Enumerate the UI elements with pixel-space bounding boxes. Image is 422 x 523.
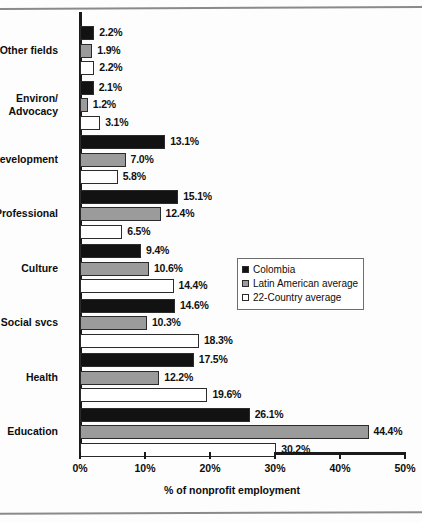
x-tick	[79, 452, 81, 459]
bar[interactable]	[80, 353, 194, 367]
bar[interactable]	[80, 425, 369, 439]
bar[interactable]	[80, 244, 141, 258]
bar-value-label: 1.9%	[97, 43, 120, 58]
bar[interactable]	[80, 225, 122, 239]
x-tick-label: 10%	[134, 462, 155, 474]
bar[interactable]	[80, 81, 94, 95]
x-axis-title: % of nonprofit employment	[0, 484, 422, 496]
x-tick-label: 30%	[264, 462, 285, 474]
bar-value-label: 2.1%	[99, 80, 122, 95]
bar[interactable]	[80, 262, 149, 276]
bar-value-label: 15.1%	[183, 189, 212, 204]
category-label: Environ/ Advocacy	[0, 92, 58, 117]
bar[interactable]	[80, 443, 276, 457]
category-label: Health	[0, 371, 58, 384]
x-tick-label: 40%	[329, 462, 350, 474]
bar-value-label: 30.2%	[281, 442, 310, 457]
page-bottom-rule	[0, 511, 422, 515]
bar-value-label: 44.4%	[374, 424, 403, 439]
x-tick	[339, 452, 341, 459]
bar[interactable]	[80, 279, 174, 293]
bar[interactable]	[80, 135, 165, 149]
x-tick	[404, 452, 406, 459]
category-label: Culture	[0, 262, 58, 275]
page-top-rule	[0, 6, 422, 10]
legend-item-latin-american-average: Latin American average	[242, 277, 358, 290]
bar-value-label: 26.1%	[255, 407, 284, 422]
bar-value-label: 2.2%	[99, 60, 122, 75]
bar[interactable]	[80, 116, 100, 130]
bar-value-label: 10.6%	[154, 261, 183, 276]
legend-swatch-colombia	[242, 266, 249, 273]
bar[interactable]	[80, 316, 147, 330]
bar-value-label: 2.2%	[99, 25, 122, 40]
bar-value-label: 18.3%	[204, 333, 233, 348]
legend-item-22-country-average: 22-Country average	[242, 291, 358, 304]
bar[interactable]	[80, 207, 161, 221]
bar-value-label: 17.5%	[199, 352, 228, 367]
bar[interactable]	[80, 388, 207, 402]
x-tick	[144, 452, 146, 459]
bar-value-label: 9.4%	[146, 243, 169, 258]
category-label: Education	[0, 425, 58, 438]
bar[interactable]	[80, 153, 126, 167]
bar-value-label: 3.1%	[105, 115, 128, 130]
bar-value-label: 6.5%	[127, 224, 150, 239]
bar[interactable]	[80, 61, 94, 75]
bar[interactable]	[80, 408, 250, 422]
x-tick	[209, 452, 211, 459]
bar[interactable]	[80, 190, 178, 204]
x-tick-label: 20%	[199, 462, 220, 474]
legend-label-latin-american-average: Latin American average	[253, 277, 358, 290]
bar[interactable]	[80, 334, 199, 348]
bar[interactable]	[80, 299, 175, 313]
legend-label-22-country-average: 22-Country average	[253, 291, 341, 304]
bar[interactable]	[80, 371, 159, 385]
chart-legend: Colombia Latin American average 22-Count…	[237, 258, 364, 310]
x-tick-label: 50%	[394, 462, 415, 474]
grouped-bar-chart: 2.2%1.9%2.2%Other fields2.1%1.2%3.1%Envi…	[0, 12, 422, 507]
bar-value-label: 12.4%	[166, 206, 195, 221]
bar-value-label: 5.8%	[123, 169, 146, 184]
bar-value-label: 13.1%	[170, 134, 199, 149]
category-label: Other fields	[0, 44, 58, 57]
bar-value-label: 14.4%	[179, 278, 208, 293]
bar[interactable]	[80, 44, 92, 58]
bar-value-label: 19.6%	[212, 387, 241, 402]
bar[interactable]	[80, 98, 88, 112]
category-label: Social svcs	[0, 316, 58, 329]
bar[interactable]	[80, 170, 118, 184]
category-label: Professional	[0, 207, 58, 220]
bar-value-label: 12.2%	[164, 370, 193, 385]
legend-item-colombia: Colombia	[242, 263, 358, 276]
legend-swatch-22-country-average	[242, 294, 249, 301]
x-tick-label: 0%	[72, 462, 87, 474]
bar-value-label: 10.3%	[152, 315, 181, 330]
bar-value-label: 1.2%	[93, 97, 116, 112]
x-axis-title-text: % of nonprofit employment	[122, 484, 300, 496]
bar-value-label: 7.0%	[131, 152, 154, 167]
bar-value-label: 14.6%	[180, 298, 209, 313]
plot-area: 2.2%1.9%2.2%Other fields2.1%1.2%3.1%Envi…	[80, 12, 405, 452]
bar[interactable]	[80, 26, 94, 40]
chart-page: 2.2%1.9%2.2%Other fields2.1%1.2%3.1%Envi…	[0, 0, 422, 523]
legend-label-colombia: Colombia	[253, 263, 295, 276]
category-label: Development	[0, 153, 58, 166]
x-tick	[274, 452, 276, 459]
legend-swatch-latin-american-average	[242, 280, 249, 287]
